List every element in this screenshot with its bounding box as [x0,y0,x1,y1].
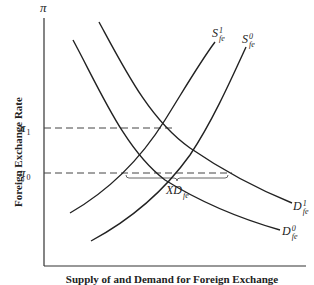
xd-base: XD [166,183,182,197]
xd-sub: fe [183,191,189,200]
pi0-sub: 0 [27,173,31,182]
excess-demand-bracket [126,175,228,181]
s0-base: S [242,32,248,46]
d1-label: D1fe [293,199,308,216]
demand-curve-d0 [73,40,280,230]
pi1-sub: 1 [27,128,31,137]
excess-demand-label: XDfe [166,183,188,198]
d1-sub: fe [303,208,309,216]
x-axis-label: Supply of and Demand for Foreign Exchang… [30,273,314,285]
s0-sub: fe [249,41,255,49]
s1-base: S [212,26,218,40]
supply-curve-s0 [91,47,246,241]
d0-base: D [282,224,291,238]
s0-label: S0fe [242,32,255,49]
demand-curve-d1 [99,22,292,203]
d0-sub: fe [292,233,298,241]
d1-base: D [293,199,302,213]
y-axis-symbol: π [40,0,47,16]
s1-sub: fe [219,35,225,43]
y-axis-label: Foreign Exchange Rate [12,82,24,222]
d0-label: D0fe [282,224,297,241]
s1-label: S1fe [212,26,225,43]
